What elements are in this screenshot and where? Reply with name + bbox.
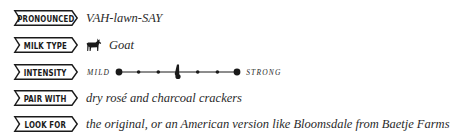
label-text: Look For xyxy=(25,119,66,130)
pairing-value: dry rosé and charcoal crackers xyxy=(86,91,242,106)
milk-type-value: Goat xyxy=(109,38,134,53)
scale-max-label: STRONG xyxy=(246,68,282,77)
pronunciation-value: VAH-lawn-SAY xyxy=(86,11,162,26)
label-tag-intensity: Intensity xyxy=(14,64,78,80)
label-tag-pair-with: Pair With xyxy=(14,90,78,106)
intensity-scale-graphic xyxy=(114,62,242,82)
row-look-for: Look For the original, or an American ve… xyxy=(14,114,450,134)
scale-min-label: MILD xyxy=(87,68,110,77)
look-for-value: the original, or an American version lik… xyxy=(86,117,450,132)
label-tag-look-for: Look For xyxy=(14,116,78,132)
row-pair-with: Pair With dry rosé and charcoal crackers xyxy=(14,88,242,108)
label-text: Milk Type xyxy=(24,40,67,51)
scale-endpoint-strong-icon xyxy=(234,69,241,76)
intensity-scale xyxy=(114,62,242,82)
label-tag-milk-type: Milk Type xyxy=(14,37,78,53)
label-text: Pronounced xyxy=(17,13,74,24)
goat-icon xyxy=(86,38,102,52)
label-tag-pronounced: Pronounced xyxy=(14,10,78,26)
row-pronounced: Pronounced VAH-lawn-SAY xyxy=(14,8,162,28)
row-milk-type: Milk Type Goat xyxy=(14,35,134,55)
row-intensity: Intensity MILD STRONG xyxy=(14,62,282,82)
label-text: Pair With xyxy=(24,93,67,104)
label-text: Intensity xyxy=(24,67,67,78)
scale-endpoint-mild-icon xyxy=(116,69,123,76)
